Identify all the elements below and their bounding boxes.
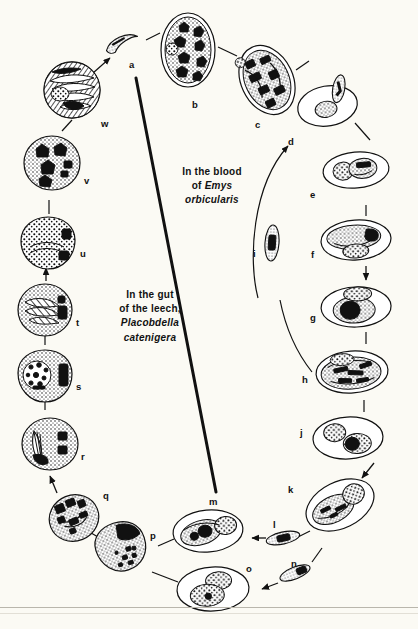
- stage-j-figure: [312, 415, 384, 461]
- stage-label-t: t: [76, 318, 79, 328]
- stage-o-figure: [176, 565, 250, 613]
- caption-host-blood-line2: of Emys: [168, 179, 256, 193]
- caption-host-blood-genus: Emys: [205, 180, 233, 191]
- caption-host-vector-species: catenigera: [98, 331, 202, 345]
- caption-host-vector: In the gut of the leech, Placobdella cat…: [98, 288, 202, 345]
- connector-m-to-p: [158, 539, 174, 546]
- stage-label-v: v: [84, 176, 89, 186]
- stage-w-figure: [44, 62, 100, 118]
- stage-c-figure: [228, 36, 306, 123]
- footer-divider-secondary: [0, 613, 418, 614]
- stage-label-i: i: [253, 249, 256, 259]
- life-cycle-diagram: [0, 0, 418, 629]
- stage-label-l: l: [273, 520, 276, 530]
- stage-l-figure: [265, 529, 301, 548]
- stage-u-figure: [21, 217, 75, 269]
- stage-label-p: p: [150, 531, 156, 541]
- stage-r-figure: [22, 418, 78, 470]
- connector-a-to-b: [146, 33, 160, 40]
- stage-a-figure: [104, 32, 140, 55]
- caption-host-blood: In the blood of Emys orbicularis: [168, 165, 256, 208]
- stage-b-figure: [161, 13, 215, 87]
- connector-k-to-n: [312, 548, 322, 562]
- compartment-divider: [136, 78, 216, 492]
- stage-label-j: j: [300, 428, 303, 438]
- caption-host-blood-species: orbicularis: [168, 193, 256, 207]
- connector-b-to-c: [218, 47, 237, 56]
- stage-label-k: k: [288, 485, 293, 495]
- connector-o-to-p: [152, 572, 178, 582]
- caption-host-vector-genus: Placobdella: [98, 316, 202, 330]
- caption-host-vector-line2: of the leech,: [98, 302, 202, 316]
- stage-m-figure: [171, 507, 244, 555]
- connector-d-to-e: [355, 123, 370, 140]
- footer-divider-primary: [0, 607, 418, 608]
- stage-label-h: h: [302, 375, 308, 385]
- stage-label-c: c: [255, 120, 260, 130]
- stage-label-g: g: [310, 313, 316, 323]
- stage-label-r: r: [81, 452, 85, 462]
- stage-t-figure: [18, 284, 72, 336]
- caption-host-vector-line1: In the gut: [98, 288, 202, 302]
- stage-g-figure: [320, 286, 391, 328]
- stage-label-q: q: [103, 491, 109, 501]
- stage-label-f: f: [311, 250, 314, 260]
- stage-label-u: u: [80, 249, 86, 259]
- connector-v-to-w: [62, 120, 72, 131]
- stage-s-figure: [18, 350, 72, 402]
- connector-h-to-i: [280, 300, 312, 372]
- stage-e-figure: [322, 149, 391, 191]
- stage-k-figure: [298, 469, 383, 542]
- stage-label-a: a: [129, 60, 134, 70]
- caption-host-blood-line1: In the blood: [168, 165, 256, 179]
- stage-label-n: n: [291, 559, 297, 569]
- connector-c-to-d: [296, 61, 309, 70]
- stage-label-e: e: [310, 190, 315, 200]
- stage-v-figure: [24, 136, 80, 190]
- connector-j-to-k: [362, 463, 374, 478]
- connector-w-to-a: [93, 58, 110, 73]
- stage-h-figure: [315, 349, 390, 396]
- diagram-canvas: [0, 0, 418, 629]
- stage-label-o: o: [246, 564, 252, 574]
- stage-i-figure: [264, 225, 280, 262]
- stage-label-b: b: [192, 100, 198, 110]
- stage-label-d: d: [288, 137, 294, 147]
- stage-label-s: s: [76, 382, 81, 392]
- stage-label-m: m: [209, 497, 218, 507]
- connector-q-to-r: [50, 476, 57, 493]
- stage-p-figure: [89, 515, 152, 577]
- stage-label-w: w: [101, 119, 109, 129]
- connector-n-to-o: [262, 583, 278, 589]
- stage-d-figure: [293, 71, 361, 131]
- stage-f-figure: [320, 218, 393, 263]
- connector-i-to-d: [253, 146, 288, 298]
- caption-host-blood-of: of: [192, 180, 205, 191]
